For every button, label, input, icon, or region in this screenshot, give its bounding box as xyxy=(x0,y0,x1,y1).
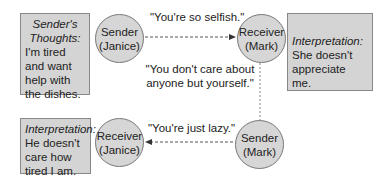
box-line: tired I am. xyxy=(25,164,86,178)
box-title: Interpretation: xyxy=(25,122,86,136)
box-line: the dishes. xyxy=(25,87,85,101)
box-title: Interpretation: xyxy=(292,34,368,48)
node-name: (Mark) xyxy=(245,39,278,53)
node-name: (Mark) xyxy=(243,145,276,159)
box-title: Thoughts: xyxy=(25,31,85,45)
box-line: and want xyxy=(25,59,85,73)
node-role: Sender xyxy=(241,131,278,145)
message-2-line2: anyone but yourself." xyxy=(140,76,260,90)
sender-thoughts-box: Sender's Thoughts: I'm tired and want he… xyxy=(20,13,90,95)
message-3: "You're just lazy." xyxy=(148,121,232,135)
box-line: care how xyxy=(25,150,86,164)
message-2-line1: "You don't care about xyxy=(140,62,260,76)
box-title: Sender's xyxy=(25,17,85,31)
node-sender-mark: Sender (Mark) xyxy=(235,120,284,169)
box-line: He doesn't xyxy=(25,136,86,150)
node-receiver-mark: Receiver (Mark) xyxy=(237,14,286,63)
node-role: Receiver xyxy=(239,25,284,39)
box-line: help with xyxy=(25,73,85,87)
box-line: I'm tired xyxy=(25,45,85,59)
node-role: Sender xyxy=(101,25,138,39)
node-name: (Janice) xyxy=(99,39,140,53)
node-sender-janice: Sender (Janice) xyxy=(95,14,144,63)
box-line: She doesn't xyxy=(292,48,368,62)
message-1: "You're so selfish." xyxy=(150,10,234,24)
node-receiver-janice: Receiver (Janice) xyxy=(95,118,144,167)
box-line: appreciate me. xyxy=(292,62,368,90)
interpretation-mark-box: Interpretation: She doesn't appreciate m… xyxy=(287,13,373,91)
node-role: Receiver xyxy=(97,129,142,143)
node-name: (Janice) xyxy=(99,143,140,157)
interpretation-janice-box: Interpretation: He doesn't care how tire… xyxy=(20,118,91,174)
